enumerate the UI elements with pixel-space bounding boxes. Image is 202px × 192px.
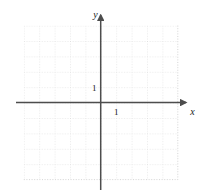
coordinate-plane-svg: 1 1 y x	[0, 0, 202, 192]
y-axis-unit-label: 1	[92, 83, 97, 93]
x-axis-label: x	[189, 106, 195, 117]
x-axis-unit-label: 1	[114, 107, 119, 117]
y-axis-label: y	[92, 9, 98, 20]
coordinate-plane-figure: 1 1 y x	[0, 0, 202, 192]
